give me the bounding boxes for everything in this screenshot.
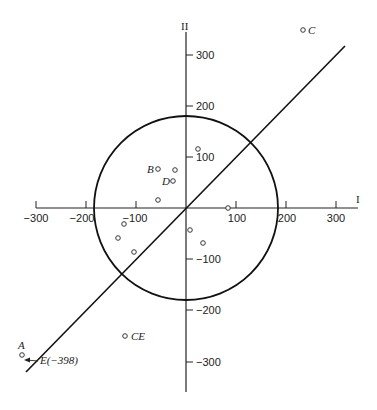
data-point (122, 222, 127, 227)
point-A (20, 353, 25, 358)
y-tick-label: −300 (196, 356, 221, 368)
data-point (116, 236, 121, 241)
x-tick-labels: −300 −200 −100 100 200 300 (24, 212, 346, 224)
x-tick-label: −300 (24, 212, 49, 224)
arrowhead-E-icon (24, 358, 30, 363)
label-E: E(−398) (39, 354, 78, 367)
data-point (132, 250, 137, 255)
x-axis-name: I (356, 193, 360, 205)
scatter-plot: −300 −200 −100 100 200 300 I 300 200 100… (0, 0, 377, 410)
x-tick-label: −100 (123, 212, 148, 224)
data-point (196, 147, 201, 152)
y-tick-label: 300 (196, 49, 214, 61)
y-tick-label: −100 (196, 253, 221, 265)
y-axis-name: II (181, 20, 189, 32)
y-tick-label: 100 (196, 151, 214, 163)
point-B (156, 167, 161, 172)
data-points (20, 28, 306, 358)
data-point (188, 228, 193, 233)
point-D (171, 179, 176, 184)
data-point (201, 241, 206, 246)
y-tick-label: 200 (196, 100, 214, 112)
point-CE (123, 334, 128, 339)
data-point (226, 206, 231, 211)
point-C (301, 28, 306, 33)
data-point (173, 168, 178, 173)
label-A: A (17, 339, 25, 351)
y-tick-label: −200 (196, 304, 221, 316)
label-CE: CE (131, 330, 145, 342)
x-tick-label: −200 (70, 212, 95, 224)
label-D: D (161, 175, 170, 187)
x-tick-label: 100 (228, 212, 246, 224)
x-tick-label: 200 (278, 212, 296, 224)
label-C: C (308, 24, 316, 36)
data-point (156, 198, 161, 203)
x-tick-label: 300 (327, 212, 345, 224)
label-B: B (147, 163, 154, 175)
